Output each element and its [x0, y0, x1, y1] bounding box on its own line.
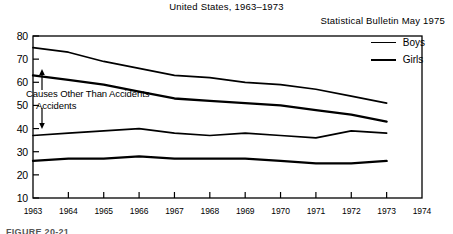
legend-item-boys[interactable]: Boys [371, 34, 425, 51]
y-axis-tick-label: 30 [2, 146, 28, 158]
y-axis-tick-label: 40 [2, 123, 28, 135]
figure-caption: FIGURE 20-21 [6, 227, 69, 234]
y-axis-tick-label: 50 [2, 99, 28, 111]
x-axis-tick-label: 1974 [400, 206, 444, 216]
chart-legend: Boys Girls [371, 34, 425, 68]
data-line-boys-accidents [33, 129, 387, 138]
figure-container: United States, 1963–1973 Statistical Bul… [0, 0, 453, 234]
annotation-accidents: Accidents [36, 100, 76, 111]
legend-swatch-line-girls [371, 59, 396, 61]
y-axis-tick-label: 20 [2, 169, 28, 181]
legend-swatch-line-boys [371, 42, 396, 43]
legend-label-boys: Boys [403, 37, 425, 48]
legend-label-girls: Girls [403, 54, 424, 65]
data-line-girls-accidents [33, 156, 387, 163]
annotation-causes-other-than-accidents: Causes Other Than Accidents [26, 88, 149, 99]
y-axis-tick-label: 10 [2, 192, 28, 204]
y-axis-tick-label: 80 [2, 30, 28, 42]
annotation-arrow-up-head [39, 69, 45, 75]
annotation-arrow-down-head [39, 123, 45, 129]
y-axis-tick-label: 60 [2, 76, 28, 88]
y-axis-tick-label: 70 [2, 53, 28, 65]
legend-item-girls[interactable]: Girls [371, 51, 425, 68]
